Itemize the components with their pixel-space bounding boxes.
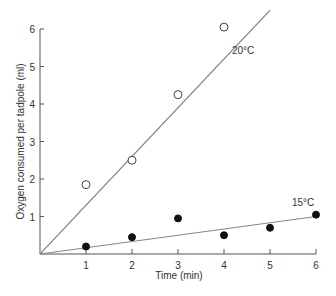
y-tick-label: 4 [29,99,35,110]
x-axis-label: Time (min) [155,270,202,281]
series-label: 15°C [292,197,314,208]
y-tick-label: 3 [29,137,35,148]
filled-point [175,215,182,222]
open-point [128,156,136,164]
y-tick-label: 5 [29,62,35,73]
chart: 123456123456Time (min)Oxygen consumed pe… [0,0,336,296]
filled-point [313,211,320,218]
y-tick-label: 2 [29,174,35,185]
x-tick-label: 4 [221,260,227,271]
x-tick-label: 6 [313,260,319,271]
x-tick-label: 5 [267,260,273,271]
data-points [82,23,320,250]
filled-point [267,224,274,231]
filled-point [83,243,90,250]
open-point [220,23,228,31]
open-point [174,91,182,99]
series-label: 20°C [232,45,254,56]
open-point [82,181,90,189]
y-tick-label: 1 [29,212,35,223]
filled-point [221,232,228,239]
x-tick-label: 2 [129,260,135,271]
y-axis-label: Oxygen consumed per tadpole (ml) [15,63,26,219]
filled-point [129,234,136,241]
labels: 20°C15°C [232,45,314,208]
x-tick-label: 1 [83,260,89,271]
axes: 123456123456Time (min)Oxygen consumed pe… [15,24,319,281]
y-tick-label: 6 [29,24,35,35]
